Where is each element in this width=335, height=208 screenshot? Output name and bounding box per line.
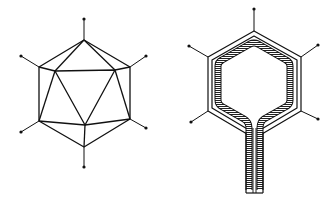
- nucleic-acid-band: [218, 43, 290, 190]
- icosahedral-capsid: [19, 17, 147, 168]
- inner-shell: [212, 36, 297, 130]
- capsid-cross-section: [187, 7, 319, 193]
- front-face-triangle: [55, 70, 115, 125]
- virus-diagram: [0, 0, 335, 208]
- diagram-canvas: [0, 0, 335, 208]
